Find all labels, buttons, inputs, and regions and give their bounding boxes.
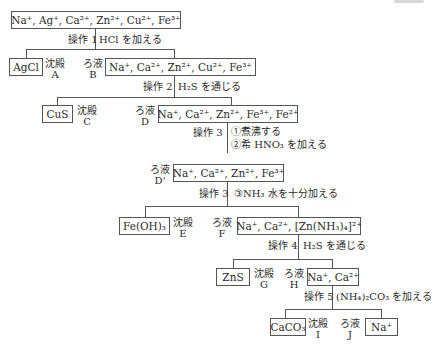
kind-text: 沈殿 [172, 217, 194, 228]
connector [233, 259, 298, 260]
step-1-reagent: HCl を加える [99, 34, 162, 46]
step-4-op-label: 操作 4 [268, 240, 298, 252]
filtrate-j-box: Na⁺ [365, 318, 398, 336]
precipitate-c-box: CuS [42, 105, 73, 123]
connector [285, 309, 381, 310]
top-edge-bar [394, 0, 424, 3]
id-text: C [76, 116, 98, 127]
filtrate-f-label: ろ液 F [211, 217, 233, 239]
precipitate-c-label: 沈殿 C [76, 105, 98, 127]
kind-text: 沈殿 [253, 268, 275, 279]
kind-text: ろ液 [283, 268, 305, 279]
connector [298, 235, 299, 259]
connector [233, 259, 234, 268]
id-text: H [283, 279, 305, 290]
precipitate-e-label: 沈殿 E [172, 217, 194, 239]
filtrate-f-box: Na⁺, Ca²⁺, [Zn(NH₃)₄]²⁺ [237, 217, 361, 235]
connector [145, 206, 298, 207]
filtrate-d-box: Na⁺, Ca²⁺, Zn²⁺, Fe³⁺, Fe²⁺ [158, 105, 298, 123]
step-3b-reagent: ③NH₃ 水を十分加える [234, 188, 338, 200]
connector [174, 49, 175, 58]
connector [381, 309, 382, 318]
connector [26, 49, 27, 58]
step-3a-op-label: 操作 3 [193, 127, 223, 139]
connector [57, 97, 231, 98]
precipitate-g-box: ZnS [216, 268, 250, 286]
kind-text: ろ液 [211, 217, 233, 228]
connector [26, 49, 174, 50]
filtrate-b-label: ろ液 B [82, 58, 104, 80]
precipitate-a-box: AgCl [9, 58, 43, 76]
filtrate-d-prime-label: ろ液 D' [149, 164, 171, 186]
step-3b-op-label: 操作 3 [199, 188, 229, 200]
kind-text: 沈殿 [44, 58, 66, 69]
connector [57, 97, 58, 105]
filtrate-j-label: ろ液 J [339, 318, 361, 340]
step-1-op-label: 操作 1 [68, 34, 98, 46]
kind-text: 沈殿 [76, 105, 98, 116]
precipitate-a-label: 沈殿 A [44, 58, 66, 80]
step-2-reagent: H₂S を通じる [178, 81, 241, 93]
connector [332, 259, 333, 268]
connector [285, 309, 286, 318]
connector [174, 76, 175, 98]
initial-solution-box: Na⁺, Ag⁺, Ca²⁺, Zn²⁺, Cu²⁺, Fe³⁺ [11, 11, 181, 29]
filtrate-h-label: ろ液 H [283, 268, 305, 290]
id-text: D [134, 116, 156, 127]
id-text: A [44, 69, 66, 80]
kind-text: ろ液 [339, 318, 361, 329]
kind-text: ろ液 [82, 58, 104, 69]
connector [298, 206, 299, 217]
id-text: F [211, 228, 233, 239]
step-3a-reagent-1: ①煮沸する [231, 126, 281, 138]
id-text: J [339, 329, 361, 340]
id-text: B [82, 69, 104, 80]
kind-text: ろ液 [134, 105, 156, 116]
id-text: D' [149, 175, 171, 186]
connector [298, 259, 332, 260]
precipitate-e-box: Fe(OH)₃ [119, 217, 170, 235]
id-text: G [253, 279, 275, 290]
step-5-reagent: (NH₄)₂CO₃ を加える [336, 291, 432, 303]
step-4-reagent: H₂S を通じる [303, 240, 366, 252]
kind-text: 沈殿 [307, 318, 329, 329]
step-2-op-label: 操作 2 [143, 81, 173, 93]
precipitate-i-label: 沈殿 I [307, 318, 329, 340]
connector [231, 97, 232, 105]
connector [145, 206, 146, 217]
precipitate-g-label: 沈殿 G [253, 268, 275, 290]
filtrate-d-prime-box: Na⁺, Ca²⁺, Zn²⁺, Fe³⁺ [173, 164, 284, 182]
connector [227, 123, 228, 153]
step-3a-reagent-2: ②希 HNO₃ を加える [231, 139, 327, 151]
id-text: I [307, 329, 329, 340]
step-5-op-label: 操作 5 [304, 291, 334, 303]
id-text: E [172, 228, 194, 239]
kind-text: ろ液 [149, 164, 171, 175]
precipitate-i-box: CaCO₃ [270, 318, 306, 336]
filtrate-b-box: Na⁺, Ca²⁺, Zn²⁺, Cu²⁺, Fe³⁺ [105, 58, 256, 76]
filtrate-h-box: Na⁺, Ca²⁺ [307, 268, 359, 286]
filtrate-d-label: ろ液 D [134, 105, 156, 127]
